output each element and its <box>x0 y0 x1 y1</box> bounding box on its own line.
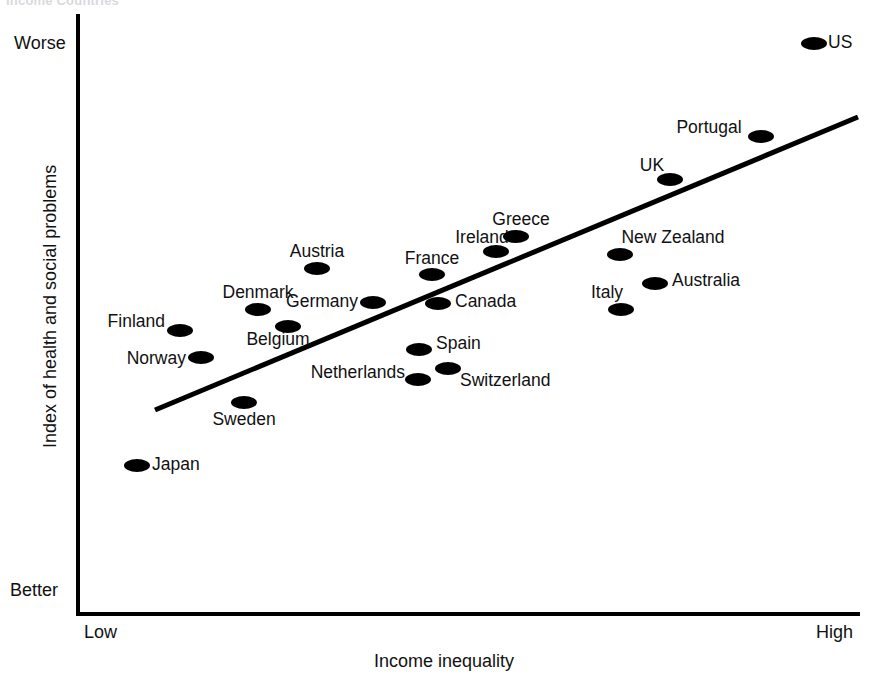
data-point <box>124 459 150 472</box>
data-point <box>607 248 633 261</box>
data-point <box>608 303 634 316</box>
data-point-label: US <box>828 34 852 52</box>
data-point-label: Finland <box>108 313 165 331</box>
data-point-label: Germany <box>286 293 358 311</box>
data-point <box>406 343 432 356</box>
data-point <box>642 277 668 290</box>
data-point <box>435 362 461 375</box>
data-point-label: Sweden <box>212 411 275 429</box>
data-point <box>503 230 529 243</box>
data-point-label: UK <box>640 157 664 175</box>
data-point-label: New Zealand <box>621 229 724 247</box>
data-point-label: Australia <box>672 272 740 290</box>
scatter-chart: Income Countries Worse Better Low High I… <box>0 0 888 680</box>
data-point-label: Denmark <box>223 284 294 302</box>
data-point <box>231 396 257 409</box>
data-point <box>419 268 445 281</box>
plot-area: JapanNorwayFinlandSwedenDenmarkBelgiumAu… <box>0 0 888 680</box>
data-point <box>405 373 431 386</box>
data-point-label: Italy <box>591 284 623 302</box>
data-point-label: Portugal <box>676 119 741 137</box>
data-point-label: Greece <box>492 211 549 229</box>
data-point <box>360 296 386 309</box>
data-point <box>425 297 451 310</box>
data-point <box>304 262 330 275</box>
data-point-label: Canada <box>455 293 516 311</box>
data-point-label: Austria <box>290 243 344 261</box>
data-point <box>245 303 271 316</box>
data-point-label: Belgium <box>246 331 309 349</box>
data-point-label: France <box>405 250 459 268</box>
data-point <box>801 37 827 50</box>
data-point <box>167 324 193 337</box>
data-point <box>748 130 774 143</box>
data-point-label: Netherlands <box>311 364 405 382</box>
data-point-label: Ireland <box>455 229 509 247</box>
data-point-label: Japan <box>152 456 200 474</box>
data-point-label: Norway <box>127 350 186 368</box>
data-point-label: Spain <box>436 335 481 353</box>
data-point-label: Switzerland <box>460 372 550 390</box>
data-point <box>188 351 214 364</box>
